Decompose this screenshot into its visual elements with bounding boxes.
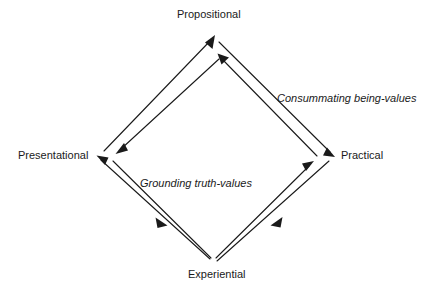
- arrowhead-at-practical-outer: [323, 148, 335, 158]
- edge-experiential-to-presentational: [101, 160, 210, 259]
- edge-practical-to-propositional: [222, 59, 317, 156]
- arrowhead-at-practical-inner: [302, 161, 314, 171]
- edge-propositional-to-presentational: [121, 59, 219, 149]
- edge-annotation-consummating-being-values: Consummating being-values: [277, 92, 416, 105]
- vertex-label-presentational: Presentational: [18, 149, 88, 162]
- diagram-canvas: Propositional Presentational Practical E…: [0, 0, 428, 300]
- arrowhead-at-presentational: [97, 156, 109, 166]
- arrowhead-practical-to-experiential-mid: [271, 217, 283, 228]
- edge-annotation-grounding-truth-values: Grounding truth-values: [140, 177, 252, 190]
- vertex-label-propositional: Propositional: [177, 8, 241, 21]
- arrowhead-at-propositional-outer: [205, 35, 215, 49]
- edge-practical-to-experiential: [217, 161, 329, 261]
- vertex-label-experiential: Experiential: [188, 268, 245, 281]
- edge-presentational-to-experiential: [113, 161, 211, 258]
- edge-presentational-to-propositional: [104, 41, 210, 151]
- vertex-label-practical: Practical: [341, 149, 383, 162]
